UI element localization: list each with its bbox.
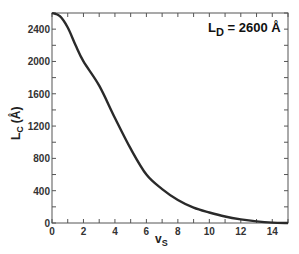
data-series-line (52, 13, 288, 223)
svg-text:800: 800 (33, 153, 50, 164)
svg-text:2400: 2400 (28, 24, 51, 35)
svg-text:1600: 1600 (28, 89, 51, 100)
tick-labels: 0246810121404008001200160020002400 (28, 24, 279, 237)
svg-text:2000: 2000 (28, 56, 51, 67)
x-axis-label: vS (155, 232, 168, 248)
svg-text:14: 14 (267, 226, 279, 237)
svg-text:12: 12 (235, 226, 247, 237)
svg-text:2: 2 (81, 226, 87, 237)
svg-text:10: 10 (204, 226, 216, 237)
svg-text:1200: 1200 (28, 121, 51, 132)
svg-text:400: 400 (33, 186, 50, 197)
svg-text:6: 6 (144, 226, 150, 237)
svg-text:0: 0 (49, 226, 55, 237)
svg-text:8: 8 (175, 226, 181, 237)
annotation-ld: LD = 2600 Å (208, 20, 281, 38)
svg-text:4: 4 (112, 226, 118, 237)
svg-text:0: 0 (44, 218, 50, 229)
axis-ticks (52, 13, 288, 223)
line-chart: 0246810121404008001200160020002400 LD = … (0, 0, 299, 254)
y-axis-label: LC(Å) (8, 106, 25, 140)
plot-frame (52, 13, 288, 223)
